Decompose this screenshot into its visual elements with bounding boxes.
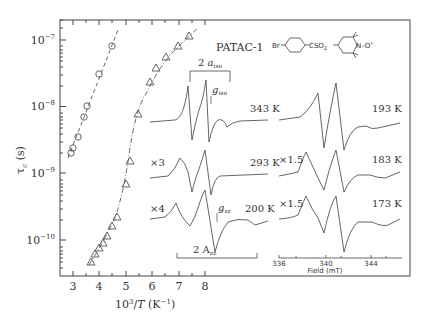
y-tick-label: 10−9 [31, 166, 55, 180]
x-tick-label: 4 [96, 280, 103, 293]
spectrum-scale-label: ×3 [150, 157, 165, 168]
y-axis-ticks [60, 20, 66, 268]
field-tick-label: 344 [364, 260, 378, 268]
y-tick-labels: 10−7 10−8 10−9 10−10 [26, 33, 55, 247]
x-axis-label: 103/T (K−1) [115, 298, 175, 311]
x-tick-label: 8 [202, 280, 209, 293]
y-tick-label: 10−8 [31, 99, 55, 113]
spectrum-temp-label: 200 K [245, 203, 275, 214]
series-triangles [87, 28, 198, 265]
spectrum-temp-label: 343 K [250, 103, 280, 114]
data-point-triangle [95, 244, 103, 251]
spectrum-temp-label: 173 K [372, 198, 402, 209]
chemical-structure: Br CSO2 N–O• [272, 32, 373, 58]
inset-title: PATAC-1 [216, 41, 264, 54]
figure: 3 4 5 6 7 8 103/T (K−1) [0, 0, 433, 318]
data-point-triangle [146, 78, 154, 85]
field-axis: 336 340 344 Field (mT) [272, 255, 402, 275]
left-spectra-labels: 343 K ×3 293 K ×4 200 K [150, 103, 280, 214]
data-point-triangle [152, 64, 160, 71]
data-point-triangle [126, 157, 134, 164]
x-tick-label: 7 [176, 280, 183, 293]
x-tick-labels: 3 4 5 6 7 8 [70, 280, 209, 293]
spectrum-temp-label: 183 K [372, 154, 402, 165]
spectrum-scale-label: ×1.5 [279, 154, 303, 165]
y-tick-label: 10−7 [31, 33, 55, 47]
data-point-triangle [103, 232, 111, 239]
svg-text:N–O•: N–O• [356, 40, 373, 50]
data-point-triangle [122, 180, 130, 187]
data-point-circle [96, 71, 102, 77]
svg-text:Br: Br [272, 42, 280, 50]
svg-text:CSO2: CSO2 [309, 42, 327, 51]
y-tick-label: 10−10 [26, 233, 55, 247]
data-point-triangle [99, 239, 107, 246]
x-tick-label: 5 [123, 280, 130, 293]
g-zz-label: gzz [218, 202, 231, 214]
data-point-triangle [174, 42, 182, 49]
spectrum-scale-label: ×1.5 [279, 198, 303, 209]
x-tick-label: 3 [70, 280, 77, 293]
svg-text:2 Azz: 2 Azz [193, 244, 216, 256]
field-axis-label: Field (mT) [308, 267, 343, 275]
field-tick-label: 336 [272, 260, 286, 268]
series-circles [68, 30, 118, 158]
x-axis-ticks [73, 20, 205, 276]
plot-frame [60, 20, 410, 276]
data-point-triangle [185, 32, 193, 39]
a-iso-bracket: 2 aiso [190, 57, 230, 82]
spectrum-scale-label: ×4 [150, 203, 165, 214]
g-iso-label: giso [212, 84, 227, 96]
spectrum-temp-label: 193 K [372, 103, 402, 114]
y-axis-label: τc (s) [14, 146, 29, 174]
spectrum-temp-label: 293 K [250, 157, 280, 168]
data-point-triangle [162, 53, 170, 60]
x-tick-label: 6 [149, 280, 156, 293]
svg-text:2 aiso: 2 aiso [198, 57, 223, 69]
data-point-circle [84, 103, 90, 109]
